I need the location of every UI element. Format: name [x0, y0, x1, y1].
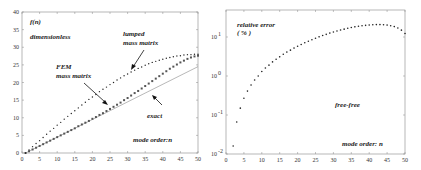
relative-error-chart: 05101520253035404550 10-210-1100101 rela…: [210, 0, 421, 170]
lumped-marker: [148, 63, 149, 64]
fem-marker: [130, 95, 132, 97]
error-marker: [325, 34, 327, 36]
lumped-marker: [137, 68, 138, 69]
lumped-marker: [35, 143, 36, 144]
error-marker: [308, 40, 310, 42]
lumped-marker: [155, 61, 156, 62]
y-tick-exponent: 0: [218, 70, 221, 76]
fem-marker: [197, 55, 199, 57]
lumped-marker: [53, 128, 54, 129]
error-marker: [240, 107, 242, 109]
x-tick-label: 35: [142, 156, 148, 162]
fem-marker: [102, 112, 104, 114]
fem-marker: [151, 80, 153, 82]
fem-marker: [162, 73, 164, 75]
x-tick-label: 40: [160, 156, 166, 162]
error-marker: [236, 121, 238, 123]
fem-marker: [35, 147, 37, 149]
plot-series: [232, 24, 405, 147]
lumped-marker: [130, 71, 131, 72]
x-tick-label: 25: [107, 156, 113, 162]
lumped-marker: [78, 107, 79, 108]
lumped-marker: [183, 54, 184, 55]
y-axis-label-percent: ( % ): [237, 29, 251, 37]
fem-marker: [190, 56, 192, 58]
error-marker: [290, 49, 292, 51]
fem-marker: [113, 106, 115, 108]
error-marker: [297, 45, 299, 47]
error-marker: [351, 27, 353, 29]
error-marker: [361, 25, 363, 27]
lumped-marker: [152, 62, 153, 63]
error-marker: [272, 61, 274, 63]
error-marker: [397, 27, 399, 29]
y-tick-label: 5: [16, 132, 19, 138]
exact-label: exact: [147, 112, 163, 120]
lumped-marker: [67, 116, 68, 117]
error-marker: [279, 56, 281, 58]
fem-marker: [144, 85, 146, 87]
y-tick-label: 15: [13, 97, 19, 103]
error-marker: [358, 26, 360, 28]
error-marker: [300, 44, 302, 46]
lumped-marker: [187, 54, 188, 55]
error-marker: [286, 51, 288, 53]
y-axis-label-dimensionless: dimensionless: [30, 33, 71, 41]
error-marker: [304, 42, 306, 44]
lumped-marker: [180, 55, 181, 56]
x-tick-label: 50: [195, 156, 201, 162]
x-tick-label: 40: [366, 157, 372, 163]
lumped-marker: [99, 91, 100, 92]
case-label-free-free: free-free: [335, 101, 360, 109]
lumped-marker: [141, 66, 142, 67]
x-tick-label: 15: [277, 157, 283, 163]
error-marker: [347, 28, 349, 30]
y-tick-label: 40: [13, 9, 19, 15]
lumped-label-line1: lumped: [123, 30, 145, 38]
y-tick-label: 20: [13, 80, 19, 86]
fem-marker: [70, 129, 72, 131]
fem-marker: [88, 120, 90, 122]
error-marker: [368, 24, 370, 26]
fem-marker: [67, 131, 69, 133]
x-tick-label: 30: [125, 156, 131, 162]
error-marker: [404, 33, 406, 35]
error-marker: [257, 75, 259, 77]
fem-marker: [179, 61, 181, 63]
fem-marker: [74, 127, 76, 129]
error-marker: [243, 97, 245, 99]
y-tick-label: 10: [211, 151, 217, 157]
x-tick-label: 35: [348, 157, 354, 163]
x-tick-label: 30: [330, 157, 336, 163]
left-chart-panel: 05101520253035404550 0510152025303540 f(…: [0, 0, 210, 170]
y-tick-exponent: -2: [218, 148, 223, 154]
x-tick-label: 20: [295, 157, 301, 163]
lumped-marker: [127, 73, 128, 74]
error-marker: [311, 39, 313, 41]
lumped-marker: [134, 69, 135, 70]
y-tick-label: 0: [16, 150, 19, 156]
lumped-arrow: [133, 50, 144, 67]
lumped-marker: [49, 130, 50, 131]
error-marker: [365, 25, 367, 27]
y-tick-label: 10: [13, 115, 19, 121]
lumped-marker: [102, 88, 103, 89]
x-tick-label: 10: [259, 157, 265, 163]
lumped-marker: [106, 86, 107, 87]
y-tick-label: 25: [13, 62, 19, 68]
right-chart-panel: 05101520253035404550 10-210-1100101 rela…: [210, 0, 421, 170]
lumped-marker: [64, 118, 65, 119]
y-tick-label: 10: [211, 73, 217, 79]
fem-marker: [77, 125, 79, 127]
y-axis-label-relative-error: relative error: [237, 21, 275, 29]
lumped-marker: [145, 65, 146, 66]
fem-marker: [123, 99, 125, 101]
fem-marker: [91, 118, 93, 120]
x-tick-label: 45: [384, 157, 390, 163]
lumped-marker: [28, 149, 29, 150]
lumped-arrowhead: [131, 64, 136, 70]
fem-marker: [116, 104, 118, 106]
y-axis-label-fn: f(n): [30, 18, 41, 26]
fem-marker: [42, 143, 44, 145]
error-marker: [268, 64, 270, 66]
